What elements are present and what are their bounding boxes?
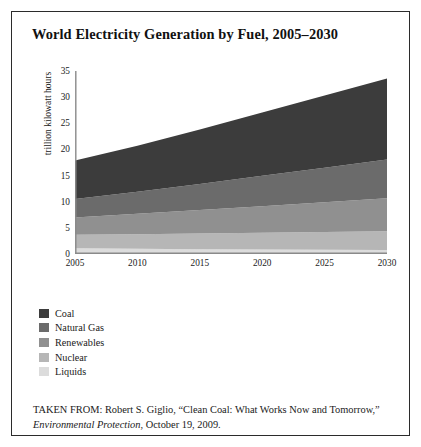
y-axis-title: trillion kilowatt hours (42, 39, 53, 189)
legend-swatch-icon (39, 367, 49, 376)
legend-item: Coal (39, 306, 104, 321)
legend-item-label: Coal (55, 308, 74, 319)
legend-swatch-icon (39, 353, 49, 362)
y-tick-label: 25 (48, 118, 70, 128)
legend-item-label: Natural Gas (55, 322, 104, 333)
legend-swatch-icon (39, 309, 49, 318)
legend-item: Nuclear (39, 350, 104, 365)
legend-item-label: Renewables (55, 337, 104, 348)
legend-item-label: Nuclear (55, 352, 87, 363)
x-tick-label: 2020 (253, 258, 272, 268)
chart-area: trillion kilowatt hours 0510152025303520… (28, 56, 398, 286)
legend-item: Natural Gas (39, 321, 104, 336)
caption-prefix: TAKEN FROM: Robert S. Giglio, “Clean Coa… (33, 404, 380, 415)
caption-suffix: , October 19, 2009. (140, 419, 220, 430)
legend-item: Renewables (39, 335, 104, 350)
legend-item: Liquids (39, 364, 104, 379)
y-tick-label: 5 (48, 223, 70, 233)
x-tick-label: 2010 (128, 258, 147, 268)
figure-title: World Electricity Generation by Fuel, 20… (32, 26, 392, 43)
y-tick-label: 15 (48, 171, 70, 181)
x-tick-label: 2030 (378, 258, 397, 268)
plot-frame: 05101520253035200520102015202020252030 (75, 71, 387, 254)
legend-item-label: Liquids (55, 366, 86, 377)
figure-caption: TAKEN FROM: Robert S. Giglio, “Clean Coa… (33, 403, 395, 433)
stacked-area-plot (75, 71, 387, 254)
y-tick-label: 30 (48, 92, 70, 102)
caption-source-title: Environmental Protection (33, 419, 140, 430)
legend-swatch-icon (39, 323, 49, 332)
legend-swatch-icon (39, 338, 49, 347)
y-tick-label: 35 (48, 66, 70, 76)
x-tick-label: 2005 (66, 258, 85, 268)
y-tick-label: 20 (48, 144, 70, 154)
chart-legend: CoalNatural GasRenewablesNuclearLiquids (39, 306, 104, 379)
figure-container: World Electricity Generation by Fuel, 20… (11, 11, 410, 436)
x-tick-label: 2015 (191, 258, 210, 268)
y-tick-label: 10 (48, 197, 70, 207)
x-tick-label: 2025 (315, 258, 334, 268)
